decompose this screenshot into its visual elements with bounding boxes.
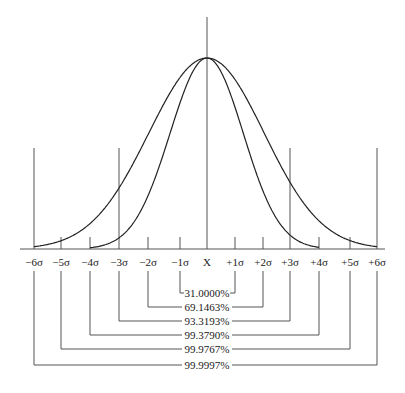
tick-label: −6σ: [25, 256, 43, 268]
bell-curves: [34, 58, 377, 248]
tick-label: X: [203, 256, 211, 268]
coverage-percentage: 93.3193%: [185, 315, 230, 327]
tick-label: −3σ: [110, 256, 128, 268]
tick-label: −2σ: [139, 256, 157, 268]
tick-label: +4σ: [310, 256, 328, 268]
coverage-percentage: 99.3790%: [185, 329, 230, 341]
tick-label: +3σ: [281, 256, 299, 268]
tick-label: −1σ: [171, 256, 189, 268]
narrow-distribution-curve: [90, 58, 319, 248]
coverage-percentage: 99.9997%: [185, 359, 230, 371]
coverage-bracket: 99.9767%: [61, 271, 350, 355]
tick-label: +6σ: [368, 256, 386, 268]
coverage-bracket: 93.3193%: [119, 271, 290, 327]
tick-label: −5σ: [52, 256, 70, 268]
axis-ticks: [34, 148, 377, 249]
coverage-brackets: 31.0000%69.1463%93.3193%99.3790%99.9767%…: [34, 271, 377, 371]
tick-label: +1σ: [226, 256, 244, 268]
tick-label: +2σ: [254, 256, 272, 268]
tick-label: −4σ: [81, 256, 99, 268]
wide-distribution-curve: [34, 58, 377, 247]
coverage-percentage: 31.0000%: [185, 287, 230, 299]
coverage-bracket: 31.0000%: [180, 271, 235, 299]
six-sigma-diagram: −6σ−5σ−4σ−3σ−2σ−1σX+1σ+2σ+3σ+4σ+5σ+6σ 31…: [0, 0, 405, 393]
tick-label: +5σ: [341, 256, 359, 268]
axis-tick-labels: −6σ−5σ−4σ−3σ−2σ−1σX+1σ+2σ+3σ+4σ+5σ+6σ: [25, 256, 386, 268]
coverage-percentage: 69.1463%: [185, 301, 230, 313]
coverage-percentage: 99.9767%: [185, 343, 230, 355]
